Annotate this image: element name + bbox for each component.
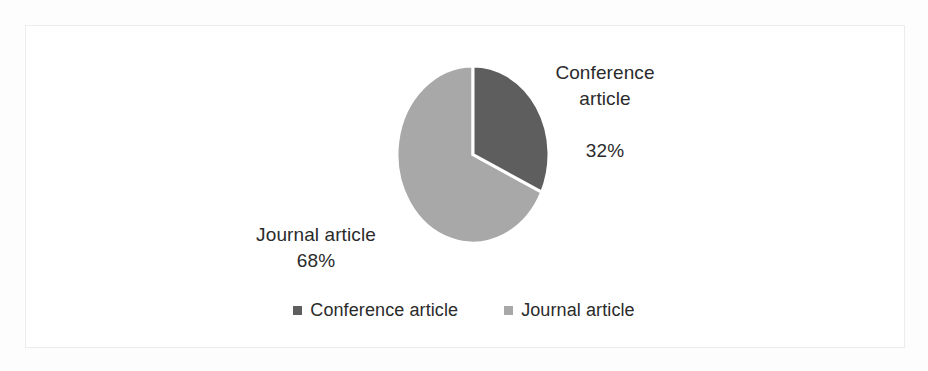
data-label-conference-line2: article — [541, 86, 669, 112]
pie-chart-figure: Conference article 32% Journal article 6… — [0, 0, 928, 371]
legend-swatch-conference-article-icon — [293, 306, 302, 315]
pie-svg — [397, 66, 549, 243]
pie-graphic — [397, 66, 549, 243]
chart-legend: Conference article Journal article — [0, 299, 928, 321]
legend-label-journal-article: Journal article — [521, 299, 635, 321]
legend-swatch-journal-article-icon — [504, 306, 513, 315]
legend-label-conference-article: Conference article — [310, 299, 458, 321]
legend-item-journal-article[interactable]: Journal article — [504, 299, 635, 321]
data-label-conference-line1: Conference — [555, 62, 654, 83]
legend-item-conference-article[interactable]: Conference article — [293, 299, 458, 321]
data-label-journal-article: Journal article 68% — [225, 196, 407, 300]
data-label-journal-line1: Journal article — [256, 224, 376, 245]
data-label-conference-article: Conference article 32% — [541, 34, 669, 190]
data-label-journal-value: 68% — [225, 248, 407, 274]
data-label-conference-value: 32% — [541, 138, 669, 164]
